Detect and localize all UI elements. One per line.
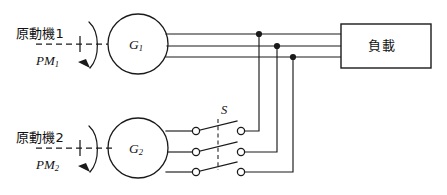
g1-symbol-subscript: 1 — [139, 43, 143, 53]
riser-phase-3 — [245, 57, 293, 172]
generator-1-label: G1 — [129, 38, 143, 53]
pm2-symbol-subscript: 2 — [55, 163, 59, 173]
prime-mover-1-label: 原動機1 — [16, 27, 64, 40]
generator-2-leads — [166, 131, 193, 172]
pm1-symbol-subscript: 1 — [55, 59, 59, 69]
switch-terminal-left-phase-3[interactable] — [192, 168, 199, 175]
pm1-symbol-text: PM — [36, 53, 55, 68]
prime-mover-2-label: 原動機2 — [16, 131, 64, 144]
pm2-rotation-arc — [89, 126, 97, 172]
pm1-rotation-arrowhead — [78, 59, 90, 68]
switch-to-bus-risers — [245, 34, 293, 172]
load-label: 負載 — [368, 39, 396, 52]
bus-junction-phase-3 — [290, 54, 296, 60]
circuit-diagram: 原動機1 PM1 G1 原動機2 PM2 G2 S 負載 — [0, 0, 447, 195]
generator-2-label: G2 — [129, 142, 143, 157]
switch-terminal-right-phase-3[interactable] — [237, 168, 244, 175]
switch-terminal-left-phase-1[interactable] — [192, 127, 199, 134]
switch-label: S — [221, 104, 227, 117]
g1-symbol-text: G — [129, 37, 139, 52]
prime-mover-1-symbol: PM1 — [36, 54, 59, 69]
diagram-canvas — [0, 0, 447, 195]
bus-junction-phase-2 — [274, 43, 280, 49]
pm2-symbol-text: PM — [36, 157, 55, 172]
bus-junction-phase-1 — [256, 31, 262, 37]
switch-terminal-right-phase-1[interactable] — [237, 127, 244, 134]
main-bus-conductors — [166, 34, 341, 57]
pm2-rotation-arrowhead — [78, 163, 90, 172]
riser-phase-1 — [245, 34, 259, 131]
switch-terminal-right-phase-2[interactable] — [237, 148, 244, 155]
prime-mover-2-symbol: PM2 — [36, 158, 59, 173]
g2-symbol-subscript: 2 — [139, 147, 143, 157]
switch-terminal-left-phase-2[interactable] — [192, 148, 199, 155]
riser-phase-2 — [245, 46, 277, 152]
pm1-rotation-arc — [89, 22, 97, 68]
g2-symbol-text: G — [129, 141, 139, 156]
